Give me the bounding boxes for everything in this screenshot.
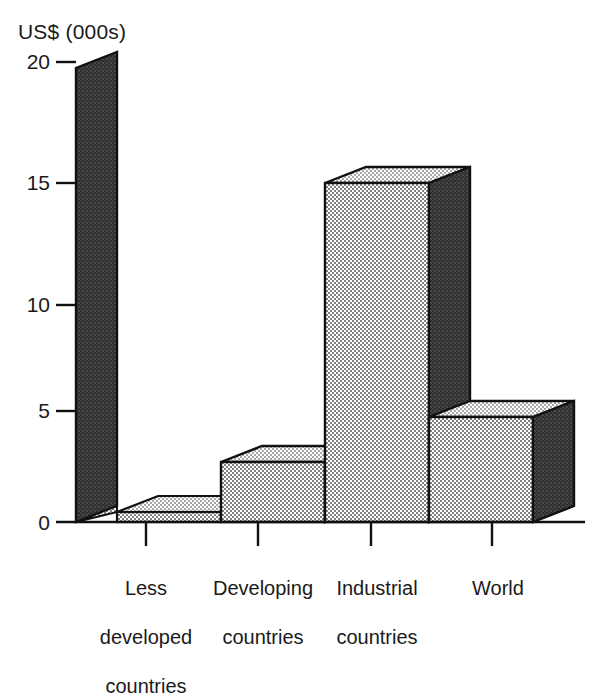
x-axis-ticks <box>146 522 492 546</box>
x-label-line-1: Industrial <box>312 576 442 600</box>
x-label-industrial-countries: Industrial countries <box>312 552 442 674</box>
x-label-line-1: World <box>443 576 553 600</box>
x-label-line-3: countries <box>61 674 231 697</box>
bar-2-front-face <box>117 512 221 522</box>
bar-5-side-face <box>533 401 574 522</box>
x-label-world: World <box>443 552 553 625</box>
bar-5-front-face <box>429 417 533 522</box>
bar-1-side-face <box>76 52 117 522</box>
bar-3-front-face <box>221 462 325 522</box>
bar-less-developed-countries <box>76 52 117 522</box>
y-axis-ticks <box>56 62 76 411</box>
bar-4-front-face <box>325 183 429 522</box>
x-label-line-2: countries <box>312 625 442 649</box>
bar-world <box>429 401 574 522</box>
